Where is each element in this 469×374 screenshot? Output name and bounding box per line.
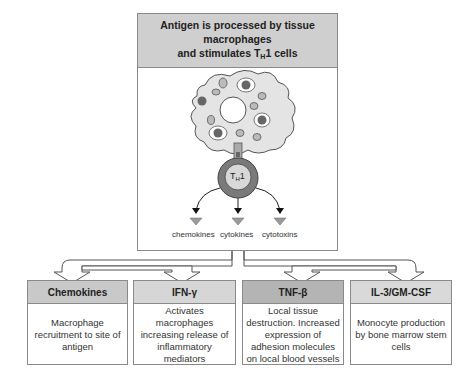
effect-title: IL-3/GM-CSF	[351, 281, 451, 304]
effect-title: Chemokines	[28, 281, 127, 304]
effect-description: Local tissue destruction. Increased expr…	[243, 304, 343, 365]
effect-description: Activates macrophages increasing release…	[134, 304, 235, 365]
th1-cell-label: TH1	[230, 171, 245, 182]
product-label-chemokines: chemokines	[172, 230, 215, 239]
effect-description: Monocyte production by bone marrow stem …	[351, 304, 451, 365]
effect-title: IFN-γ	[134, 281, 235, 304]
effect-card-chemokines: Chemokines Macrophage recruitment to sit…	[27, 280, 128, 365]
product-label-cytotoxins: cytotoxins	[262, 230, 298, 239]
branch-arrows	[54, 251, 424, 283]
product-triangles	[190, 218, 286, 225]
effect-card-tnf-beta: TNF-β Local tissue destruction. Increase…	[242, 280, 344, 365]
effect-card-il3-gmcsf: IL-3/GM-CSF Monocyte production by bone …	[350, 280, 452, 365]
effect-card-ifn-gamma: IFN-γ Activates macrophages increasing r…	[133, 280, 236, 365]
arrowheads	[192, 208, 284, 214]
effect-description: Macrophage recruitment to site of antige…	[28, 304, 127, 365]
effect-title: TNF-β	[243, 281, 343, 304]
product-label-cytokines: cytokines	[220, 230, 253, 239]
macrophage-icon	[191, 70, 295, 165]
